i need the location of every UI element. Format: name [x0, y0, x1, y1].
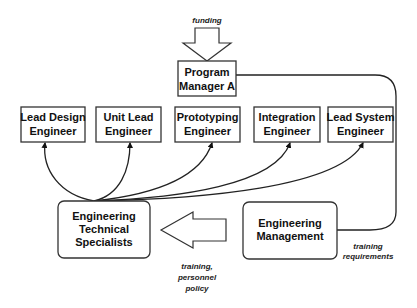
engineer-label-line2: Engineer: [263, 125, 311, 137]
engineer-box-prototyping: Prototyping Engineer: [175, 107, 240, 142]
engineer-label-line1: Lead System: [327, 111, 395, 123]
specialists-line1: Engineering: [72, 210, 136, 222]
management-line2: Management: [256, 230, 324, 242]
engineer-label-line2: Engineer: [29, 125, 77, 137]
training-policy-arrow-icon: [161, 212, 226, 248]
arrow-to-lead-design: [45, 143, 94, 201]
arrow-label-line2: personnel: [177, 273, 217, 282]
program-manager-box: Program Manager A: [178, 61, 236, 96]
funding-arrow-icon: [183, 28, 231, 61]
engineer-label-line2: Engineer: [105, 125, 153, 137]
engineer-label-line1: Prototyping: [177, 111, 239, 123]
management-box: Engineering Management: [243, 202, 337, 259]
engineer-label-line1: Lead Design: [20, 111, 86, 123]
engineer-box-unit-lead: Unit Lead Engineer: [96, 107, 161, 142]
arrow-to-unit-lead: [94, 143, 130, 201]
arrow-to-integration: [94, 143, 290, 201]
engineer-box-lead-design: Lead Design Engineer: [20, 107, 86, 142]
engineer-label-line1: Unit Lead: [103, 111, 153, 123]
arrow-label-line1: training,: [181, 262, 213, 271]
org-diagram: funding Program Manager A Lead Design En…: [0, 0, 417, 308]
engineer-label-line1: Integration: [259, 111, 316, 123]
engineer-box-integration: Integration Engineer: [254, 107, 320, 142]
engineer-label-line2: Engineer: [337, 125, 385, 137]
specialists-line2: Technical: [79, 223, 129, 235]
arrow-label-line3: policy: [184, 284, 209, 293]
program-manager-line2: Manager A: [179, 80, 235, 92]
funding-label: funding: [192, 16, 221, 25]
program-manager-line1: Program: [184, 66, 229, 78]
specialists-box: Engineering Technical Specialists: [58, 201, 150, 258]
engineer-label-line2: Engineer: [184, 125, 232, 137]
arrow-to-lead-system: [94, 143, 363, 201]
loop-label-line1: training: [353, 242, 382, 251]
management-line1: Engineering: [258, 217, 322, 229]
engineer-box-lead-system: Lead System Engineer: [327, 107, 395, 142]
loop-label-line2: requirements: [343, 252, 394, 261]
specialists-line3: Specialists: [75, 236, 132, 248]
